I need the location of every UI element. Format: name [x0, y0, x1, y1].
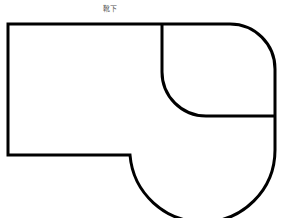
outer-outline	[8, 24, 275, 218]
sock-pattern-diagram	[0, 0, 282, 218]
heel-curve	[162, 24, 275, 116]
